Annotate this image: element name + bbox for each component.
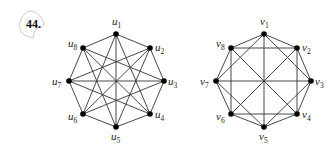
vertex-u4 xyxy=(147,111,153,117)
vertex-label-u5: u5 xyxy=(111,130,121,145)
vertex-u6 xyxy=(80,111,86,117)
vertex-label-v6: v6 xyxy=(216,110,225,125)
vertex-v1 xyxy=(261,31,267,37)
problem-number-label: 44. xyxy=(26,17,41,31)
vertex-label-u1: u1 xyxy=(112,15,122,30)
edge-v5-v6 xyxy=(231,114,264,127)
vertex-u8 xyxy=(80,45,86,51)
edge-v8-v1 xyxy=(231,34,264,48)
vertex-label-v7: v7 xyxy=(200,75,209,90)
vertex-v8 xyxy=(228,45,234,51)
vertex-v4 xyxy=(294,111,300,117)
vertex-v3 xyxy=(308,78,314,84)
vertex-label-u4: u4 xyxy=(155,108,165,123)
vertex-label-v5: v5 xyxy=(259,130,268,145)
vertex-label-u3: u3 xyxy=(168,75,178,90)
problem-number: 44. xyxy=(20,11,44,38)
vertex-label-u7: u7 xyxy=(52,75,62,90)
vertex-u7 xyxy=(66,78,72,84)
graph-left: u1u2u3u4u5u6u7u8 xyxy=(52,15,178,145)
vertex-u2 xyxy=(147,45,153,51)
vertex-label-v2: v2 xyxy=(302,41,311,56)
vertex-label-v4: v4 xyxy=(302,108,311,123)
vertex-v2 xyxy=(294,45,300,51)
vertex-v7 xyxy=(213,78,219,84)
graph-figure: 44. u1u2u3u4u5u6u7u8 v1v2v3v4v5v6v7v8 xyxy=(0,0,335,152)
vertex-label-u8: u8 xyxy=(68,37,78,52)
vertex-u3 xyxy=(161,78,167,84)
vertex-v5 xyxy=(261,124,267,130)
vertex-u1 xyxy=(113,31,119,37)
vertex-label-v1: v1 xyxy=(260,15,269,30)
vertex-label-u2: u2 xyxy=(155,41,165,56)
vertex-label-v3: v3 xyxy=(315,75,324,90)
edge-v7-v8 xyxy=(216,48,231,81)
edge-v4-v5 xyxy=(264,114,297,127)
graph-right: v1v2v3v4v5v6v7v8 xyxy=(200,15,324,145)
vertex-label-v8: v8 xyxy=(216,37,225,52)
vertex-v6 xyxy=(228,111,234,117)
vertex-u5 xyxy=(113,124,119,130)
vertex-label-u6: u6 xyxy=(68,110,78,125)
edge-v1-v2 xyxy=(264,34,297,48)
